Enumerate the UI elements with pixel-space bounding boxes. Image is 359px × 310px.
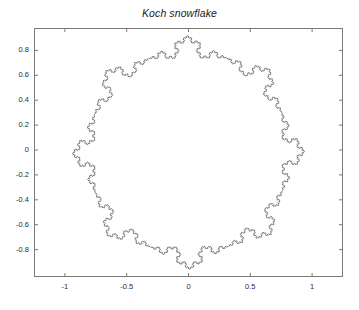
x-axis-tick-label: 1 <box>310 283 314 291</box>
x-axis-tick-label: 0.5 <box>245 283 255 291</box>
y-axis-tick-label: 0.4 <box>0 96 29 104</box>
plot-axes-area <box>34 28 343 277</box>
x-axis-tick-label: -1 <box>62 283 69 291</box>
y-axis-tick-label: 0.6 <box>0 72 29 80</box>
koch-snowflake-curve <box>34 28 343 277</box>
x-axis-tick-label: -0.5 <box>120 283 133 291</box>
y-axis-tick-label: 0 <box>0 146 29 154</box>
page-title: Koch snowflake <box>0 7 359 19</box>
y-axis-tick-label: -0.2 <box>0 171 29 179</box>
y-axis-tick-label: 0.8 <box>0 47 29 55</box>
x-axis-tick-label: 0 <box>186 283 190 291</box>
koch-snowflake-path <box>72 36 304 270</box>
y-axis-tick-label: -0.6 <box>0 221 29 229</box>
y-axis-tick-label: 0.2 <box>0 121 29 129</box>
y-axis-tick-label: -0.4 <box>0 196 29 204</box>
figure-canvas: Koch snowflake 0.80.60.40.20-0.2-0.4-0.6… <box>0 0 359 310</box>
y-axis-tick-label: -0.8 <box>0 246 29 254</box>
